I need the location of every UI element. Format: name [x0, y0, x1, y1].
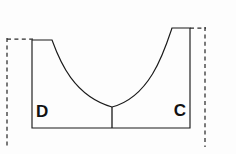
label-d: D: [36, 102, 48, 121]
label-c: C: [174, 101, 186, 120]
trough-cross-section-figure: D C: [0, 0, 236, 154]
diagram-canvas: D C: [0, 0, 236, 154]
trough-outline-path: [32, 28, 190, 128]
